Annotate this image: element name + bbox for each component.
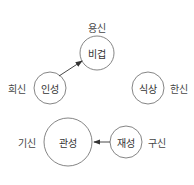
- role-label-hansin: 한신: [170, 81, 188, 96]
- role-label-yongsin: 용신: [88, 20, 106, 35]
- node-label-gwanseong: 관성: [59, 135, 77, 150]
- arrow-inseong-to-bigeop: [59, 61, 82, 76]
- node-label-bigeop: 비겁: [88, 46, 106, 61]
- role-label-gisin: 기신: [18, 135, 36, 150]
- node-label-jaeseong: 재성: [117, 135, 135, 150]
- node-label-siksang: 식상: [139, 81, 157, 96]
- diagram-canvas: 비겁 인성 식상 관성 재성 용신 희신 한신 기신 구신: [0, 0, 194, 185]
- role-label-huisin: 희신: [8, 81, 26, 96]
- node-label-inseong: 인성: [41, 81, 59, 96]
- role-label-gusin: 구신: [148, 135, 166, 150]
